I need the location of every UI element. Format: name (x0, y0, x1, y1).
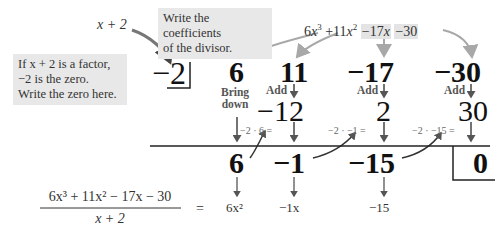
zero-note: If x + 2 is a factor, −2 is the zero. Wr… (13, 54, 127, 105)
divisor-zero: −2 (152, 58, 186, 88)
quotient-term-1: 6x² (226, 200, 243, 216)
coef-6: 6 (229, 57, 244, 87)
product-neg12: −12 (257, 96, 304, 126)
product-2: 2 (376, 96, 391, 126)
remainder: 0 (473, 148, 488, 178)
quotient-term-2: −1x (279, 200, 299, 216)
result-neg1: −1 (273, 148, 305, 178)
multiply-label-2: −2 · −1 = (328, 125, 366, 136)
result-6: 6 (229, 148, 244, 178)
divisor-label: x + 2 (97, 17, 127, 33)
multiply-label-3: −2 · −15 = (412, 125, 455, 136)
coefficients-note: Write the coefficients of the divisor. (158, 8, 272, 59)
coef-neg30: −30 (434, 57, 481, 87)
coef-11: 11 (280, 57, 308, 87)
equation-numerator: 6x³ + 11x² − 17x − 30 (36, 189, 184, 205)
dividend-polynomial: 6x3 +11x2 −17x −30 (304, 24, 418, 40)
add-label-2: Add (357, 84, 378, 96)
bring-down-label: Bring down (221, 86, 249, 110)
coef-arrow-30 (443, 30, 472, 57)
result-neg15: −15 (348, 148, 395, 178)
multiply-label-1: −2 · 6 = (240, 125, 272, 136)
equation-denominator: x + 2 (36, 211, 184, 227)
quotient-term-3: −15 (369, 200, 389, 216)
product-30: 30 (458, 96, 488, 126)
coef-neg17: −17 (347, 57, 394, 87)
equals-sign: = (196, 201, 204, 217)
